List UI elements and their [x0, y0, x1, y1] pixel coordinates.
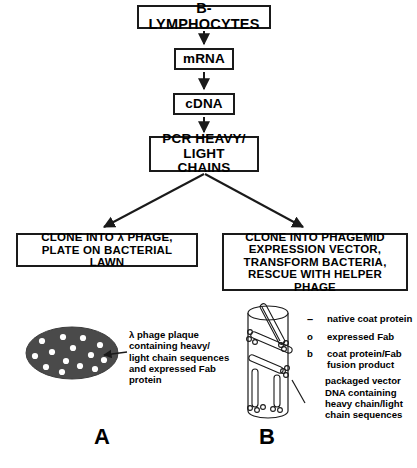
flow-box-pcr-heavy-light-chains: PCR HEAVY/ LIGHT CHAINS — [149, 136, 259, 172]
flow-box-clone-lambda-label: CLONE INTO λ PHAGE, PLATE ON BACTERIAL L… — [18, 231, 196, 268]
legend-label-fusion-product: coat protein/Fab fusion product — [327, 348, 402, 371]
legend-item-native-coat-protein: – native coat protein — [305, 313, 417, 326]
flow-box-cdna-label: cDNA — [180, 97, 228, 112]
flow-box-b-lymphocytes: B-LYMPHOCYTES — [137, 5, 271, 29]
arrow-pcr-to-phagemid-branch — [205, 174, 303, 227]
flow-box-clone-phagemid-label: CLONE INTO PHAGEMID EXPRESSION VECTOR, T… — [224, 231, 406, 293]
flow-box-clone-lambda-phage: CLONE INTO λ PHAGE, PLATE ON BACTERIAL L… — [16, 233, 198, 267]
circle-symbol-icon: o — [305, 331, 327, 343]
panel-label-a: A — [94, 424, 110, 450]
flow-box-b-lymphocytes-label: B-LYMPHOCYTES — [139, 1, 269, 32]
legend-label-expressed-fab: expressed Fab — [327, 331, 394, 342]
phage-legend: – native coat protein o expressed Fab b … — [305, 313, 417, 426]
b-symbol-icon: b — [305, 348, 327, 360]
dash-symbol-icon: – — [305, 313, 327, 326]
legend-item-expressed-fab: o expressed Fab — [305, 331, 417, 343]
arrow-pcr-to-lambda-branch — [104, 174, 204, 227]
figure-canvas: B-LYMPHOCYTES mRNA cDNA PCR HEAVY/ LIGHT… — [0, 0, 417, 468]
phage-particle-illustration — [247, 304, 305, 418]
legend-item-fusion-product: b coat protein/Fab fusion product — [305, 348, 417, 371]
plaque-illustration — [26, 327, 127, 379]
panel-label-b: B — [259, 424, 275, 450]
flow-box-mrna-label: mRNA — [178, 52, 230, 67]
flow-box-clone-phagemid: CLONE INTO PHAGEMID EXPRESSION VECTOR, T… — [222, 233, 408, 291]
plaque-dots — [32, 334, 107, 375]
legend-label-packaged-vector-dna: packaged vector DNA containing heavy cha… — [325, 375, 403, 420]
flow-box-cdna: cDNA — [173, 93, 235, 115]
legend-item-packaged-vector-dna: packaged vector DNA containing heavy cha… — [305, 375, 417, 420]
plaque-caption: λ phage plaque containing heavy/ light c… — [129, 329, 239, 386]
flow-box-pcr-label: PCR HEAVY/ LIGHT CHAINS — [151, 132, 257, 176]
flow-box-mrna: mRNA — [174, 48, 234, 70]
legend-label-native-coat-protein: native coat protein — [327, 313, 412, 324]
slash-symbol-icon — [305, 375, 325, 420]
